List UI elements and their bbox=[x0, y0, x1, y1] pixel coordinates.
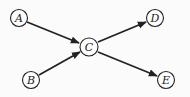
graph-canvas: A B C D E bbox=[0, 0, 190, 97]
node-a: A bbox=[11, 10, 28, 27]
node-c-label: C bbox=[85, 41, 94, 54]
edge-b-c bbox=[39, 52, 80, 75]
node-d: D bbox=[147, 10, 164, 27]
node-a-label: A bbox=[14, 12, 23, 25]
node-d-label: D bbox=[150, 12, 160, 25]
edge-c-d bbox=[98, 22, 146, 42]
node-e: E bbox=[158, 72, 175, 89]
node-b-label: B bbox=[26, 74, 35, 87]
edge-a-c bbox=[27, 22, 79, 43]
edge-c-e bbox=[98, 52, 157, 76]
node-b: B bbox=[23, 72, 40, 89]
node-e-label: E bbox=[161, 74, 170, 87]
node-c: C bbox=[80, 38, 98, 56]
